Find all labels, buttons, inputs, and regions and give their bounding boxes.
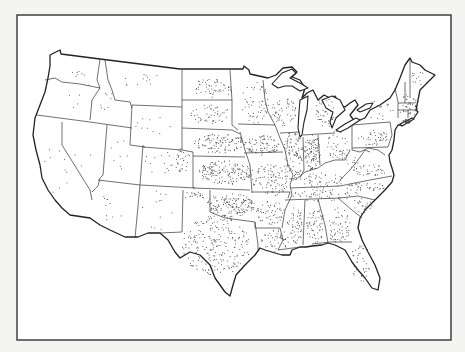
density-dot — [211, 170, 212, 171]
density-dot — [316, 139, 317, 140]
density-dot — [209, 79, 210, 80]
density-dot — [412, 104, 413, 105]
density-dot — [201, 119, 202, 120]
density-dot — [242, 203, 243, 204]
density-dot — [260, 141, 261, 142]
density-dot — [317, 232, 318, 233]
density-dot — [330, 190, 331, 191]
density-dot — [267, 144, 268, 145]
density-dot — [287, 141, 288, 142]
density-dot — [264, 136, 265, 137]
density-dot — [262, 153, 263, 154]
density-dot — [290, 168, 291, 169]
density-dot — [243, 199, 244, 200]
density-dot — [233, 267, 234, 268]
density-dot — [351, 190, 352, 191]
density-dot — [323, 215, 324, 216]
density-dot — [234, 264, 235, 265]
density-dot — [354, 170, 355, 171]
density-dot — [226, 243, 227, 244]
density-dot — [165, 194, 166, 195]
density-dot — [276, 180, 277, 181]
density-dot — [152, 171, 153, 172]
density-dot — [211, 176, 212, 177]
density-dot — [415, 106, 416, 107]
density-dot — [249, 120, 250, 121]
density-dot — [278, 177, 279, 178]
density-dot — [202, 195, 203, 196]
density-dot — [238, 175, 239, 176]
density-dot — [266, 185, 267, 186]
density-dot — [189, 241, 190, 242]
density-dot — [326, 100, 327, 101]
density-dot — [279, 110, 280, 111]
density-dot — [300, 219, 301, 220]
density-dot — [250, 143, 251, 144]
density-dot — [277, 194, 278, 195]
density-dot — [232, 271, 233, 272]
density-dot — [345, 222, 346, 223]
density-dot — [410, 103, 411, 104]
density-dot — [224, 168, 225, 169]
density-dot — [268, 105, 269, 106]
density-dot — [229, 142, 230, 143]
density-dot — [150, 84, 151, 85]
density-dot — [253, 101, 254, 102]
density-dot — [216, 246, 217, 247]
density-dot — [328, 120, 329, 121]
density-dot — [180, 159, 181, 160]
density-dot — [218, 161, 219, 162]
density-dot — [250, 116, 251, 117]
density-dot — [314, 224, 315, 225]
density-dot — [154, 228, 155, 229]
density-dot — [351, 185, 352, 186]
density-dot — [271, 235, 272, 236]
density-dot — [214, 82, 215, 83]
density-dot — [229, 174, 230, 175]
density-dot — [234, 173, 235, 174]
density-dot — [181, 169, 182, 170]
density-dot — [247, 252, 248, 253]
density-dot — [218, 245, 219, 246]
density-dot — [295, 107, 296, 108]
density-dot — [261, 105, 262, 106]
density-dot — [306, 200, 307, 201]
density-dot — [232, 237, 233, 238]
density-dot — [338, 194, 339, 195]
density-dot — [299, 227, 300, 228]
density-dot — [262, 188, 263, 189]
density-dot — [252, 149, 253, 150]
density-dot — [208, 201, 209, 202]
density-dot — [318, 217, 319, 218]
density-dot — [309, 197, 310, 198]
density-dot — [249, 206, 250, 207]
density-dot — [296, 134, 297, 135]
density-dot — [352, 251, 353, 252]
density-dot — [211, 210, 212, 211]
density-dot — [369, 144, 370, 145]
density-dot — [272, 147, 273, 148]
density-dot — [331, 239, 332, 240]
density-dot — [316, 158, 317, 159]
density-dot — [265, 192, 266, 193]
density-dot — [212, 123, 213, 124]
density-dot — [154, 157, 155, 158]
density-dot — [184, 238, 185, 239]
density-dot — [343, 150, 344, 151]
density-dot — [224, 112, 225, 113]
density-dot — [195, 119, 196, 120]
density-dot — [377, 187, 378, 188]
density-dot — [359, 246, 360, 247]
density-dot — [355, 250, 356, 251]
density-dot — [235, 244, 236, 245]
density-dot — [272, 181, 273, 182]
density-dot — [217, 151, 218, 152]
density-dot — [409, 122, 410, 123]
density-dot — [342, 151, 343, 152]
density-dot — [375, 175, 376, 176]
map-figure — [0, 0, 465, 352]
density-dot — [228, 183, 229, 184]
density-dot — [159, 201, 160, 202]
density-dot — [201, 92, 202, 93]
density-dot — [229, 160, 230, 161]
